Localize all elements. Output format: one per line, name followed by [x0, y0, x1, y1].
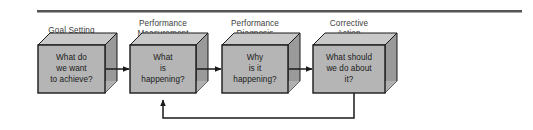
- box-text-line-3: to achieve?: [50, 75, 93, 84]
- box-text-line-1: What: [153, 53, 173, 62]
- stage-performance-measurement[interactable]: Performance Measurement What is happenin…: [130, 19, 208, 93]
- stage-label-performance-diagnosis-line-1: Performance: [231, 19, 279, 28]
- box-3d-performance-measurement: [130, 33, 208, 93]
- box-3d-performance-diagnosis: [222, 33, 300, 93]
- stage-label-corrective-action-line-1: Corrective: [330, 19, 369, 28]
- box-top-face: [313, 33, 397, 45]
- box-text-line-2: is it: [249, 64, 262, 73]
- box-text-line-3: happening?: [141, 75, 185, 84]
- box-text-line-3: it?: [345, 75, 354, 84]
- box-text-line-2: we want: [55, 64, 87, 73]
- stage-corrective-action[interactable]: Corrective Action What should we do abou…: [313, 19, 397, 93]
- box-3d-corrective-action: [313, 33, 397, 93]
- box-top-face: [38, 33, 117, 45]
- box-text-line-1: What do: [56, 53, 87, 62]
- box-text-line-1: What should: [326, 53, 372, 62]
- process-flow-diagram: Goal Setting What do we want to achieve?…: [0, 0, 533, 130]
- feedback-action-to-measurement: [163, 93, 354, 118]
- box-text-line-2: we do about: [325, 64, 372, 73]
- box-top-face: [222, 33, 300, 45]
- stage-performance-diagnosis[interactable]: Performance Diagnosis Why is it happenin…: [222, 19, 300, 93]
- diagram-canvas: Goal Setting What do we want to achieve?…: [0, 0, 533, 130]
- stage-label-performance-measurement-line-1: Performance: [139, 19, 187, 28]
- box-3d-goal-setting: [38, 33, 117, 93]
- box-text-line-1: Why: [247, 53, 264, 62]
- box-text-line-2: is: [160, 64, 166, 73]
- stage-goal-setting[interactable]: Goal Setting What do we want to achieve?: [38, 26, 117, 93]
- box-top-face: [130, 33, 208, 45]
- box-text-line-3: happening?: [233, 75, 277, 84]
